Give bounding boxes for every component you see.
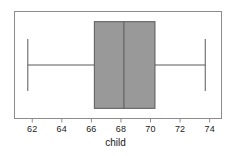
- x-tick-label-68: 68: [106, 124, 136, 135]
- x-tick-label-64: 64: [47, 124, 77, 135]
- boxplot-figure: 62 64 66 68 70 72 74 child: [0, 0, 231, 156]
- x-axis-ticks: [32, 119, 209, 123]
- x-tick-label-74: 74: [195, 124, 225, 135]
- x-tick-label-72: 72: [165, 124, 195, 135]
- iqr-box: [94, 22, 155, 109]
- x-tick-label-66: 66: [76, 124, 106, 135]
- x-tick-label-62: 62: [17, 124, 47, 135]
- x-axis-title: child: [0, 137, 231, 149]
- x-tick-label-70: 70: [136, 124, 166, 135]
